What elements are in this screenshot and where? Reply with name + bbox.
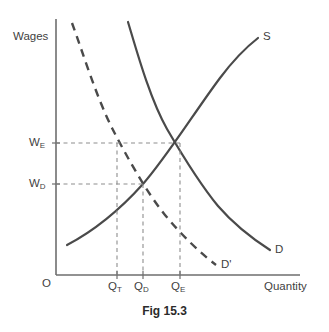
x-tick-label-qe-sub: E [180, 285, 185, 294]
x-tick-label-qd-base: Q [134, 280, 143, 292]
y-tick-label-we: WE [29, 137, 45, 149]
y-tick-label-we-sub: E [40, 141, 45, 150]
x-tick-label-qt-sub: T [117, 285, 122, 294]
y-tick-label-wd: WD [29, 178, 46, 190]
y-axis-title: Wages [13, 31, 48, 43]
supply-curve-label: S [263, 31, 271, 43]
x-tick-label-qt: QT [108, 281, 122, 293]
y-tick-label-we-base: W [29, 136, 40, 148]
demand-curve [128, 22, 270, 250]
figure-caption: Fig 15.3 [0, 304, 329, 318]
x-tick-label-qe-base: Q [171, 280, 180, 292]
y-tick-label-wd-base: W [29, 177, 40, 189]
x-axis-title: Quantity [264, 281, 307, 293]
figure-container: Wages Quantity O WE WD QT QD QE S D D' F… [0, 0, 329, 332]
y-tick-label-wd-sub: D [40, 182, 46, 191]
x-tick-label-qt-base: Q [108, 280, 117, 292]
x-tick-label-qd: QD [134, 281, 149, 293]
x-tick-label-qe: QE [171, 281, 185, 293]
origin-label: O [42, 278, 51, 290]
supply-curve [67, 38, 258, 245]
x-tick-label-qd-sub: D [143, 285, 149, 294]
shifted-demand-curve-label: D' [221, 259, 232, 271]
demand-curve-label: D [275, 244, 283, 256]
